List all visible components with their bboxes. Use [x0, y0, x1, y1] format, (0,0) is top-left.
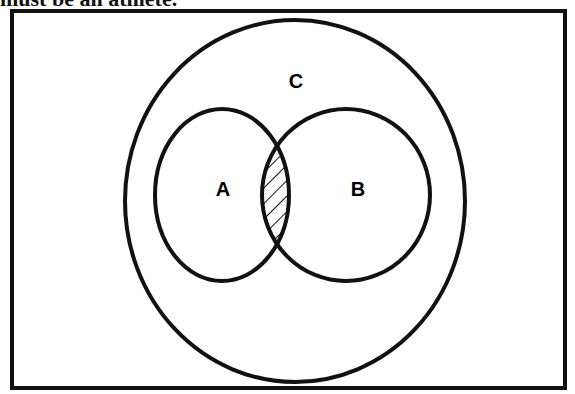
label-b: B: [351, 178, 365, 200]
venn-diagram: C A B: [0, 0, 575, 394]
label-c: C: [289, 70, 303, 92]
label-a: A: [216, 178, 230, 200]
